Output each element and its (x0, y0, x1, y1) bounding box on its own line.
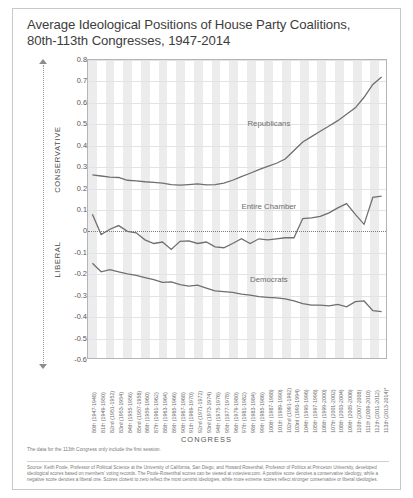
series-label-democrats: Democrats (250, 275, 288, 284)
x-tick-label: 103rd (1993-1994) (294, 389, 300, 433)
x-tick-label: 89th (1965-1966) (171, 392, 177, 433)
x-tick-label: 109th (2005-2006) (347, 389, 353, 433)
x-tick-label: 82nd (1951-1952) (109, 391, 115, 433)
source-text: Source: Keith Poole, Professor of Politi… (27, 465, 389, 484)
arrow-down-icon (39, 364, 47, 369)
y-tick-label: 0.8 (63, 55, 87, 64)
y-tick-label: 0.3 (63, 162, 87, 171)
plot-area: RepublicansEntire ChamberDemocrats (87, 59, 387, 359)
y-tick-label: -0.1 (63, 248, 87, 257)
x-tick-label: 105th (1997-1998) (312, 389, 318, 433)
x-tick-label: 100th (1987-1988) (268, 389, 274, 433)
x-tick-label: 84th (1955-1956) (127, 392, 133, 433)
x-tick-label: 102nd (1991-1992) (286, 388, 292, 433)
x-tick-label: 101th (1989-1990) (277, 389, 283, 433)
title-line-2: 80th-113th Congresses, 1947-2014 (27, 33, 387, 49)
x-tick-label: 108th (2003-2004) (338, 389, 344, 433)
y-tick-label: 0.2 (63, 184, 87, 193)
dotted-axis-line (43, 65, 44, 363)
x-tick-label: 107th (2001-2002) (330, 389, 336, 433)
y-tick-label: -0.3 (63, 291, 87, 300)
source-box: Source: Keith Poole, Professor of Politi… (27, 461, 389, 484)
x-tick-label: 92nd (1971-1972) (197, 391, 203, 433)
y-tick-label: 0.7 (63, 76, 87, 85)
x-tick-label: 94th (1975-1976) (215, 392, 221, 433)
x-tick-label: 106th (1999-2000) (321, 389, 327, 433)
series-line-democrats (92, 263, 381, 311)
y-tick-label: 0 (63, 226, 87, 235)
plot-area-wrapper: 0.80.70.60.50.40.30.20.10-0.1-0.2-0.3-0.… (59, 59, 389, 371)
title-line-1: Average Ideological Positions of House P… (27, 17, 387, 33)
x-tick-label: 97th (1981-1982) (241, 392, 247, 433)
x-tick-label: 80th (1947-1948) (91, 392, 97, 433)
x-axis-ticks: 80th (1947-1948)81th (1949-1950)82nd (19… (87, 373, 389, 435)
y-tick-label: -0.5 (63, 334, 87, 343)
x-tick-label: 87th (1961-1962) (153, 392, 159, 433)
x-tick-label: 96th (1979-1980) (233, 392, 239, 433)
footnote: The data for the 113th Congress only inc… (27, 447, 389, 452)
x-tick-label: 81th (1949-1950) (100, 392, 106, 433)
x-tick-label: 112th (2011-2012) (374, 390, 380, 433)
x-tick-label: 95th (1977-1978) (224, 392, 230, 433)
series-line-republicans (92, 77, 381, 185)
ideology-direction-axis: CONSERVATIVE LIBERAL (33, 59, 55, 369)
x-tick-label: 90th (1967-1968) (180, 392, 186, 433)
y-tick-label: 0.6 (63, 98, 87, 107)
y-tick-label: -0.6 (63, 355, 87, 364)
x-tick-label: 110th (2007-2008) (356, 390, 362, 433)
x-tick-label: 113th (2013-2014)* (383, 388, 389, 433)
x-tick-label: 91th (1969-1970) (188, 392, 194, 433)
x-tick-label: 88th (1963-1964) (162, 392, 168, 433)
x-tick-label: 104th (1995-1996) (303, 389, 309, 433)
x-tick-label: 86th (1959-1960) (144, 392, 150, 433)
y-tick-label: 0.4 (63, 141, 87, 150)
x-tick-label: 85nd (1957-1958) (136, 391, 142, 433)
x-axis-title: CONGRESS (13, 435, 400, 444)
x-tick-label: 98th (1983-1984) (250, 392, 256, 433)
x-tick-label: 111th (2009-2010) (365, 390, 371, 433)
series-line-entire-chamber (92, 196, 381, 249)
page-title: Average Ideological Positions of House P… (27, 17, 387, 48)
y-tick-label: 0.5 (63, 119, 87, 128)
series-label-republicans: Republicans (247, 119, 290, 128)
x-tick-label: 83rd (1953-1954) (118, 392, 124, 433)
arrow-up-icon (39, 59, 47, 64)
x-tick-label: 93rd (1973-1974) (206, 392, 212, 433)
series-label-entire-chamber: Entire Chamber (242, 202, 297, 211)
y-tick-label: -0.4 (63, 312, 87, 321)
series-lines (88, 60, 386, 358)
y-tick-label: 0.1 (63, 205, 87, 214)
chart-card: Average Ideological Positions of House P… (12, 8, 401, 490)
x-tick-label: 99th (1985-1986) (259, 392, 265, 433)
y-tick-label: -0.2 (63, 269, 87, 278)
